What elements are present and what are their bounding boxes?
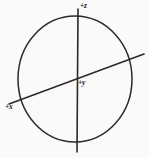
x-axis-label: +x [5, 103, 13, 111]
z-axis-label: +z [80, 2, 87, 10]
y-axis-label: +y [78, 79, 85, 87]
axis-diagram-figure: +z +y +x [0, 0, 149, 158]
diagram-canvas [0, 0, 149, 158]
x-axis-line [9, 54, 144, 104]
